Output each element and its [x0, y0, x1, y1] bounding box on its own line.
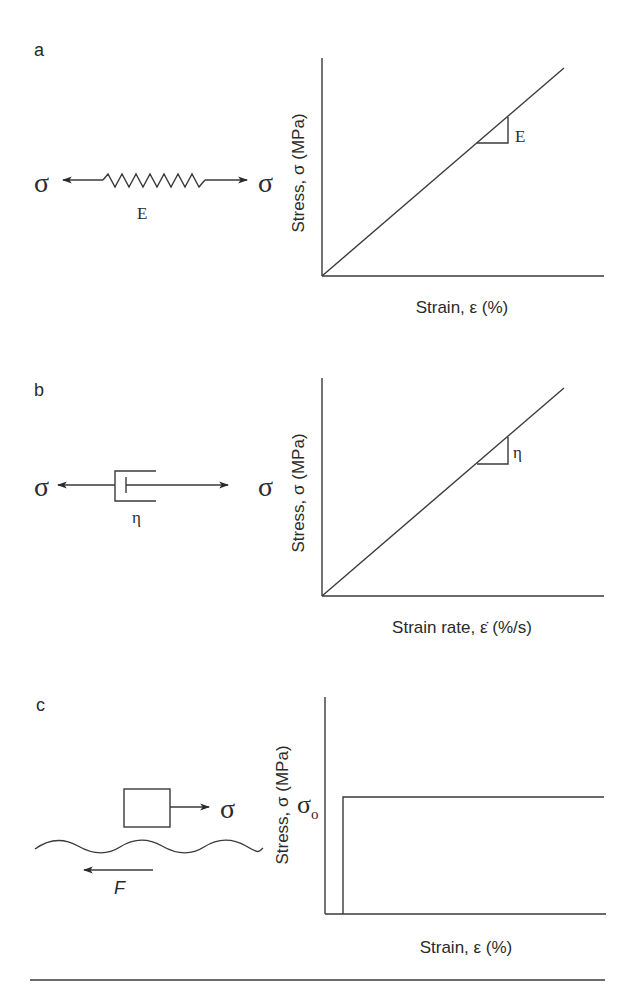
block-icon [124, 789, 170, 827]
spring-modulus-label: E [137, 204, 147, 223]
chart-a: E Stress, σ (MPa) Strain, ε (%) [289, 58, 604, 317]
panel-label-b: b [34, 380, 44, 400]
y-axis-label-c: Stress, σ (MPa) [273, 745, 292, 864]
panel-c: c σ F Stress, σ (MPa) σo Strain, ε (%) [35, 695, 606, 957]
slope-label-b: η [513, 443, 522, 462]
panel-a: a σ σ E E Stress, σ (MPa) Strain, ε (%) [34, 40, 604, 317]
panel-b: b σ σ η η Stress, σ (MPa) Strain rate, ε… [34, 378, 604, 637]
yield-stress-label: σo [297, 790, 319, 822]
viscosity-label: η [132, 508, 141, 527]
y-axis-label-a: Stress, σ (MPa) [289, 113, 308, 232]
panel-label-c: c [36, 695, 45, 715]
x-axis-label-b: Strain rate, ε̇ (%/s) [392, 618, 532, 637]
applied-stress-label: σ [220, 793, 235, 824]
friction-model: σ F [35, 789, 263, 898]
force-right-b: σ [258, 471, 273, 502]
spring-icon [103, 174, 205, 187]
stress-strain-line [322, 68, 564, 276]
chart-b: η Stress, σ (MPa) Strain rate, ε̇ (%/s) [289, 378, 604, 637]
force-left-b: σ [34, 471, 49, 502]
slope-label-a: E [515, 127, 525, 146]
panel-label-a: a [34, 40, 45, 60]
stress-strainrate-line [322, 388, 564, 596]
friction-label: F [114, 878, 126, 898]
y-axis-label-b: Stress, σ (MPa) [289, 433, 308, 552]
force-right-a: σ [258, 167, 273, 198]
rough-surface-icon [35, 840, 263, 853]
x-axis-label-a: Strain, ε (%) [416, 298, 509, 317]
force-left-a: σ [34, 167, 49, 198]
chart-c: Stress, σ (MPa) σo Strain, ε (%) [273, 697, 606, 957]
dashpot-cylinder-icon [115, 471, 156, 501]
dashpot-model: σ σ η [34, 471, 273, 527]
spring-model: σ σ E [34, 167, 273, 223]
rigid-plastic-line [343, 797, 604, 914]
x-axis-label-c: Strain, ε (%) [420, 938, 513, 957]
figure-canvas: a σ σ E E Stress, σ (MPa) Strain, ε (%) … [0, 0, 624, 989]
